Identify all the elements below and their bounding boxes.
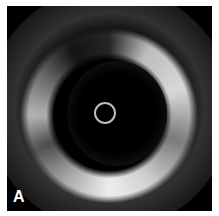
ultrasound-image — [7, 6, 212, 211]
catheter-ring — [94, 102, 116, 124]
panel-label: A — [13, 188, 25, 206]
vessel-lumen — [67, 61, 167, 166]
